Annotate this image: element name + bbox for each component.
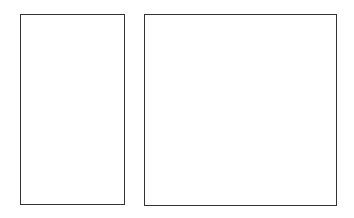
left-rectangle <box>20 14 125 205</box>
right-rectangle <box>144 14 337 206</box>
